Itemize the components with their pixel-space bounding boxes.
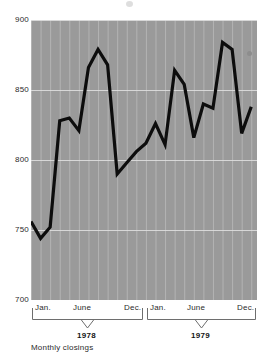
chart-plot-svg (31, 20, 257, 300)
x-tick-label-june-1978: June (73, 303, 91, 312)
plot-area (31, 20, 257, 300)
scan-artifact-icon (126, 1, 133, 7)
y-tick-label: 900 (3, 16, 29, 24)
data-line-series-monthly-closings (31, 42, 251, 238)
monthly-closings-chart: 900 850 800 750 700 Jan. June Dec. Jan. … (0, 0, 272, 360)
y-tick-label: 800 (3, 156, 29, 164)
y-tick-label: 850 (3, 86, 29, 94)
x-tick-label-dec-1978: Dec. (124, 303, 141, 312)
scan-artifact-icon (247, 51, 252, 56)
y-tick-label: 750 (3, 226, 29, 234)
year-label-1978: 1978 (77, 331, 96, 340)
chart-caption: Monthly closings (31, 343, 93, 352)
year-bracket-pointer-1979 (195, 320, 208, 329)
x-tick-label-jan-1979: Jan. (150, 303, 166, 312)
x-tick-label-dec-1979: Dec. (237, 303, 254, 312)
year-label-1979: 1979 (191, 331, 210, 340)
x-tick-label-june-1979: June (187, 303, 205, 312)
x-tick-label-jan-1978: Jan. (35, 303, 51, 312)
year-bracket-pointer-1978 (81, 320, 94, 329)
